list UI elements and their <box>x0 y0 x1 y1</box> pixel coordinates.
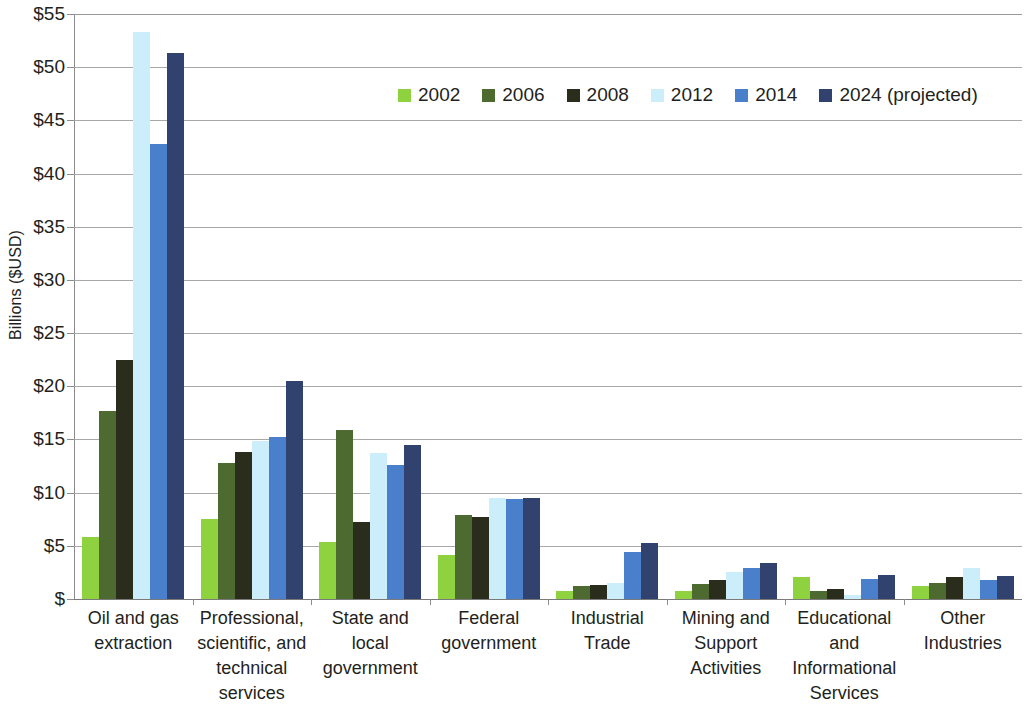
y-axis-tick-label: $5 <box>44 535 65 557</box>
bar <box>286 381 303 599</box>
legend-item[interactable]: 2014 <box>735 84 797 106</box>
bar <box>743 568 760 599</box>
bar <box>810 591 827 600</box>
bar <box>353 522 370 599</box>
bar <box>404 445 421 599</box>
tick-mark <box>67 386 74 387</box>
x-axis-category-label: Federalgovernment <box>430 606 549 656</box>
x-axis-category-label: State andlocalgovernment <box>311 606 430 681</box>
legend-swatch-icon <box>651 89 664 102</box>
legend-label: 2014 <box>755 84 797 106</box>
x-axis-category-label: Mining andSupportActivities <box>667 606 786 681</box>
bar <box>201 519 218 599</box>
bar <box>99 411 116 599</box>
bar-chart: Billions ($USD) $$5$10$15$20$25$30$35$40… <box>0 0 1029 707</box>
x-axis-category-label: Oil and gasextraction <box>74 606 193 656</box>
y-axis-tick-label: $10 <box>33 482 65 504</box>
legend-swatch-icon <box>567 89 580 102</box>
y-axis-tick-label: $20 <box>33 375 65 397</box>
bar <box>116 360 133 599</box>
bar <box>336 430 353 599</box>
y-axis-tick-label: $50 <box>33 56 65 78</box>
bar <box>675 591 692 600</box>
tick-mark <box>67 227 74 228</box>
legend-label: 2012 <box>671 84 713 106</box>
bar <box>472 517 489 599</box>
bar <box>167 53 184 599</box>
tick-mark <box>67 67 74 68</box>
x-axis-group-divider <box>430 599 431 605</box>
y-axis-title: Billions ($USD) <box>7 175 25 395</box>
legend-swatch-icon <box>482 89 495 102</box>
bar <box>861 579 878 599</box>
legend-swatch-icon <box>819 89 832 102</box>
bar <box>133 32 150 599</box>
bar <box>82 537 99 599</box>
y-axis-tick-label: $35 <box>33 216 65 238</box>
bar <box>573 586 590 599</box>
x-axis-category-label: OtherIndustries <box>904 606 1023 656</box>
bar <box>929 583 946 599</box>
legend-swatch-icon <box>398 89 411 102</box>
y-axis-tick-label: $25 <box>33 322 65 344</box>
x-axis-group-divider <box>904 599 905 605</box>
bar <box>590 585 607 599</box>
bar <box>760 563 777 599</box>
bar <box>641 543 658 599</box>
x-axis-category-label: Professional,scientific, andtechnicalser… <box>193 606 312 706</box>
bar <box>946 577 963 599</box>
y-axis-tick-label: $30 <box>33 269 65 291</box>
legend-label: 2002 <box>418 84 460 106</box>
tick-mark <box>67 174 74 175</box>
tick-mark <box>67 439 74 440</box>
x-axis-labels: Oil and gasextractionProfessional,scient… <box>74 606 1022 707</box>
legend-item[interactable]: 2002 <box>398 84 460 106</box>
bar <box>793 577 810 599</box>
bar <box>319 542 336 599</box>
bar <box>878 575 895 599</box>
y-axis-tick-label: $55 <box>33 3 65 25</box>
bar <box>506 499 523 599</box>
legend-item[interactable]: 2008 <box>567 84 629 106</box>
x-axis-group-divider <box>311 599 312 605</box>
bar <box>252 441 269 599</box>
y-axis-tick-label: $15 <box>33 428 65 450</box>
tick-mark <box>67 599 74 600</box>
tick-mark <box>67 333 74 334</box>
tick-mark <box>67 493 74 494</box>
x-axis-category-label: IndustrialTrade <box>548 606 667 656</box>
bar <box>912 586 929 599</box>
bar <box>370 453 387 599</box>
legend-item[interactable]: 2012 <box>651 84 713 106</box>
x-axis-group-divider <box>667 599 668 605</box>
bar <box>556 591 573 600</box>
bar <box>692 584 709 599</box>
bar <box>997 576 1014 599</box>
bar <box>980 580 997 599</box>
bar <box>235 452 252 599</box>
bar <box>827 589 844 599</box>
legend-label: 2024 (projected) <box>839 84 977 106</box>
bar <box>963 568 980 599</box>
x-axis-category-label: EducationalandInformationalServices <box>785 606 904 706</box>
bar <box>387 465 404 599</box>
tick-mark <box>67 546 74 547</box>
legend-label: 2008 <box>587 84 629 106</box>
bar <box>218 463 235 599</box>
y-axis-tick-label: $ <box>54 588 65 610</box>
bar <box>489 498 506 599</box>
tick-mark <box>67 280 74 281</box>
x-axis-group-divider <box>193 599 194 605</box>
legend-item[interactable]: 2024 (projected) <box>819 84 977 106</box>
bar <box>709 580 726 599</box>
bar <box>726 572 743 599</box>
legend-item[interactable]: 2006 <box>482 84 544 106</box>
bar <box>438 555 455 599</box>
tick-mark <box>67 14 74 15</box>
legend-label: 2006 <box>502 84 544 106</box>
bar-group <box>193 14 312 599</box>
y-axis-tick-label: $40 <box>33 163 65 185</box>
bar <box>269 437 286 599</box>
tick-mark <box>67 120 74 121</box>
chart-legend: 200220062008201220142024 (projected) <box>398 84 978 106</box>
